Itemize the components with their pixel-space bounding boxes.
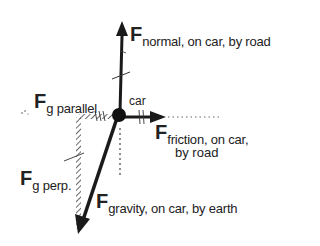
force-symbol: F: [155, 121, 167, 143]
normal-arrow: [112, 21, 130, 112]
g-perp-label: Fg perp.: [20, 168, 71, 188]
force-symbol: F: [96, 190, 108, 212]
friction-force-label: Ffriction, on car, by road: [155, 122, 280, 162]
force-subscript: g parallel: [46, 101, 97, 116]
force-symbol: F: [34, 90, 46, 112]
normal-force-label: Fnormal, on car, by road: [130, 24, 271, 44]
force-symbol: F: [130, 23, 142, 45]
car-dot: [112, 108, 126, 122]
gravity-force-label: Fgravity, on car, by earth: [96, 191, 237, 211]
force-symbol: F: [20, 167, 32, 189]
force-subscript-line2: by road: [175, 146, 218, 159]
gravity-arrow: [75, 118, 117, 234]
force-subscript: g perp.: [32, 178, 71, 193]
force-subscript: gravity, on car, by earth: [108, 201, 237, 216]
g-parallel-label: Fg parallel: [34, 91, 97, 111]
force-subscript: normal, on car, by road: [142, 34, 270, 49]
stray-marks: [21, 110, 28, 114]
car-label: car: [129, 95, 146, 107]
